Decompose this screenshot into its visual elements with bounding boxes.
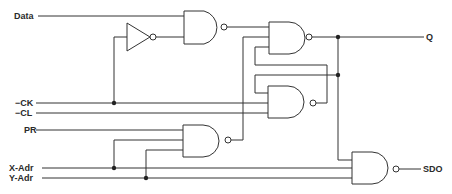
- q-feedback-wire: [255, 75, 338, 93]
- label-ck: −CK: [15, 98, 33, 108]
- label-data: Data: [14, 11, 34, 21]
- nand5-bubble: [393, 166, 399, 172]
- nand2-bubble: [306, 34, 312, 40]
- junction-dot: [112, 101, 116, 105]
- label-sdo: SDO: [423, 164, 443, 174]
- label-q: Q: [426, 32, 433, 42]
- nand4-bubble: [225, 137, 231, 143]
- junction-dot: [336, 73, 340, 77]
- label-y-adr: Y-Adr: [9, 173, 33, 183]
- nand4-out-wire: [231, 37, 269, 140]
- inverter-bubble: [150, 34, 156, 40]
- label-x-adr: X-Adr: [9, 163, 34, 173]
- schematic-wires: [0, 0, 452, 194]
- nand4-gate: [183, 125, 219, 157]
- nand1-gate: [184, 11, 217, 44]
- nand3-gate: [268, 86, 304, 118]
- junction-dot: [144, 176, 148, 180]
- nand1-bubble: [221, 24, 227, 30]
- q-to-nand5-wire: [338, 37, 352, 160]
- nand5-gate: [352, 152, 388, 184]
- label-cl: −CL: [15, 108, 32, 118]
- nand2-gate: [269, 22, 305, 54]
- inverter-gate: [127, 23, 150, 51]
- label-pr: PR: [24, 125, 37, 135]
- junction-dot: [112, 166, 116, 170]
- xadr-to-nand4-wire: [114, 140, 183, 168]
- junction-dot: [336, 35, 340, 39]
- ck-to-inverter-wire: [114, 37, 127, 103]
- yadr-to-nand4-wire: [146, 150, 183, 178]
- nand3-bubble: [310, 100, 316, 106]
- logic-diagram: Data −CK −CL PR X-Adr Y-Adr Q SDO: [0, 0, 452, 194]
